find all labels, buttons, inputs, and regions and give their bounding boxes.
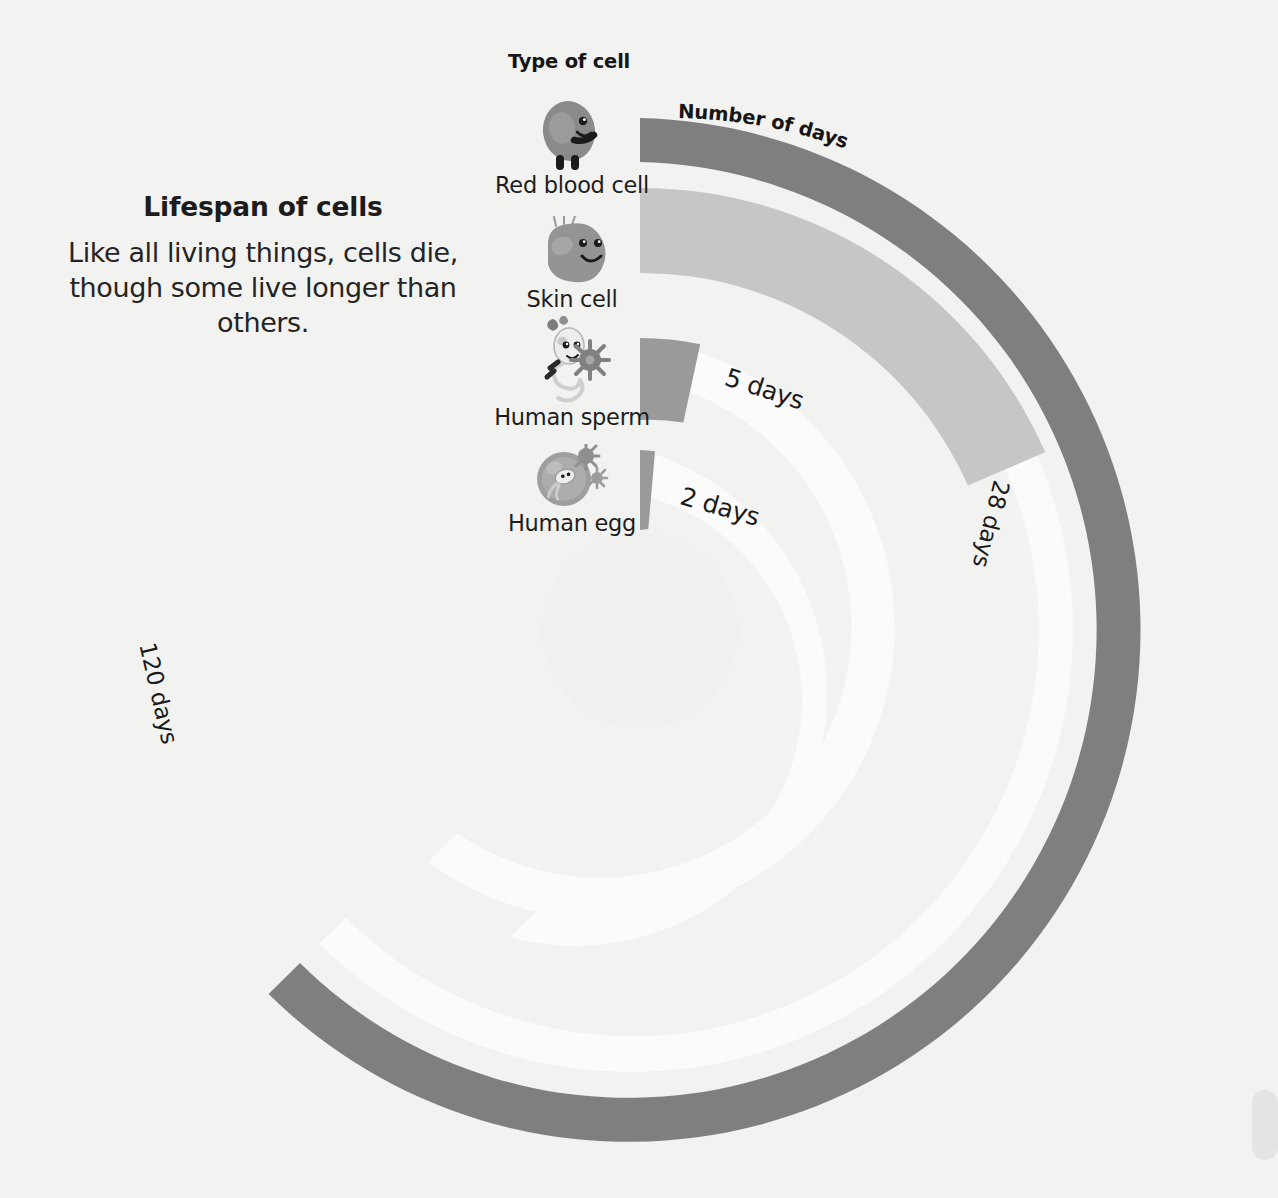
skin-cell-icon [526,216,618,286]
human-sperm-icon-wrap [462,318,682,404]
human-egg-icon-wrap [462,444,682,510]
scroll-indicator[interactable] [1252,1090,1278,1160]
human-egg-icon [524,444,620,510]
intro-text-block: Lifespan of cells Like all living things… [58,192,468,340]
legend-row-human-egg: Human egg [462,444,682,535]
legend-label-skin-cell: Skin cell [462,288,682,311]
legend-row-red-blood-cell: Red blood cell [462,98,682,197]
legend-label-red-blood-cell: Red blood cell [462,174,682,197]
skin-cell-icon-wrap [462,212,682,286]
human-sperm-icon [522,316,622,404]
legend-label-human-egg: Human egg [462,512,682,535]
legend-label-human-sperm: Human sperm [462,406,682,429]
arc-skin-cell[interactable] [640,188,1045,486]
header-type-of-cell: Type of cell [508,50,630,73]
red-blood-cell-icon-wrap [462,98,682,172]
legend-row-skin-cell: Skin cell [462,212,682,311]
page-title: Lifespan of cells [58,192,468,221]
page-subtitle: Like all living things, cells die, thoug… [58,235,468,340]
red-blood-cell-icon [529,98,615,172]
legend-row-human-sperm: Human sperm [462,318,682,429]
